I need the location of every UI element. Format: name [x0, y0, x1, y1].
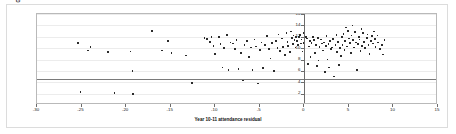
x-axis-tick-label: -5 [257, 108, 261, 113]
data-point [369, 53, 371, 55]
data-point [295, 47, 297, 49]
data-point [213, 45, 215, 47]
data-point [167, 40, 169, 42]
data-point [325, 45, 327, 47]
data-point [357, 43, 359, 45]
data-point [287, 41, 289, 43]
x-axis-title: Year 10-11 attendance residual [0, 117, 456, 122]
data-point [287, 45, 289, 47]
data-point [185, 55, 187, 57]
data-point [332, 38, 334, 40]
data-point [294, 39, 296, 41]
y-axis-tick-mark [301, 14, 304, 15]
data-point [350, 52, 352, 54]
data-point [242, 80, 244, 82]
data-point [322, 50, 324, 52]
data-point [279, 50, 281, 52]
y-axis-tick-mark [301, 25, 304, 26]
x-axis-tick-label: 15 [435, 108, 440, 113]
data-point [306, 38, 308, 40]
data-point [295, 36, 297, 38]
data-point [293, 35, 295, 37]
data-point [333, 76, 335, 78]
data-point [307, 63, 309, 65]
data-point [303, 42, 305, 44]
data-point [204, 37, 206, 39]
data-point [340, 55, 342, 57]
plot-area: 0246810121416 [36, 13, 437, 104]
data-point [261, 42, 263, 44]
x-axis-tick-label: 5 [347, 108, 349, 113]
y-axis-tick-label: 16 [288, 13, 300, 16]
data-point [268, 48, 270, 50]
data-point [323, 42, 325, 44]
data-point [361, 45, 363, 47]
data-point [220, 43, 222, 45]
data-point [326, 35, 328, 37]
data-point [343, 33, 345, 35]
y-axis-tick-label: 2 [288, 91, 300, 95]
data-point [132, 93, 134, 95]
data-point [358, 36, 360, 38]
data-point [312, 36, 314, 38]
data-point [361, 28, 363, 30]
y-axis-tick-mark [301, 82, 304, 83]
data-point [315, 44, 317, 46]
data-point [114, 92, 116, 94]
data-point [336, 51, 338, 53]
data-point [342, 44, 344, 46]
data-point [353, 47, 355, 49]
data-point [292, 43, 294, 45]
y-axis-tick-label: 6 [288, 68, 300, 72]
data-point [341, 36, 343, 38]
data-point [344, 49, 346, 51]
data-point [319, 46, 321, 48]
data-point [275, 40, 277, 42]
data-point [77, 42, 79, 44]
y-axis-tick-label: 8 [288, 57, 300, 61]
data-point [320, 39, 322, 41]
y-axis-tick-mark [301, 60, 304, 61]
data-point [372, 43, 374, 45]
horizontal-reference-line [37, 79, 436, 80]
data-point [151, 30, 153, 32]
data-point [238, 68, 240, 70]
data-point [232, 43, 234, 45]
data-point [356, 69, 358, 71]
data-point [255, 46, 257, 48]
data-point [289, 51, 291, 53]
data-point [90, 46, 92, 48]
data-point [338, 64, 340, 66]
data-point [273, 70, 275, 72]
data-point [377, 42, 379, 44]
y-axis-title-container: GCSE passes A*-G [24, 13, 34, 104]
data-point [301, 39, 303, 41]
data-point [222, 67, 224, 69]
data-point [337, 41, 339, 43]
data-point [379, 48, 381, 50]
data-point [339, 47, 341, 49]
data-point [299, 34, 301, 36]
data-point [248, 56, 250, 58]
x-axis-tick-label: -30 [33, 108, 39, 113]
data-point [218, 36, 220, 38]
y-axis-title: GCSE passes A*-G [16, 0, 21, 27]
data-point [373, 31, 375, 33]
gridline [37, 82, 436, 83]
data-point [257, 83, 259, 85]
data-point [107, 51, 109, 53]
data-point [297, 44, 299, 46]
data-point [311, 42, 313, 44]
data-point [360, 50, 362, 52]
data-point [278, 34, 280, 36]
gridline [37, 94, 436, 95]
data-point [270, 58, 272, 60]
data-point [374, 38, 376, 40]
data-point [87, 50, 89, 52]
data-point [226, 34, 228, 36]
data-point [250, 47, 252, 49]
data-point [375, 46, 377, 48]
data-point [291, 37, 293, 39]
y-axis-tick-mark [301, 94, 304, 95]
data-point [284, 54, 286, 56]
